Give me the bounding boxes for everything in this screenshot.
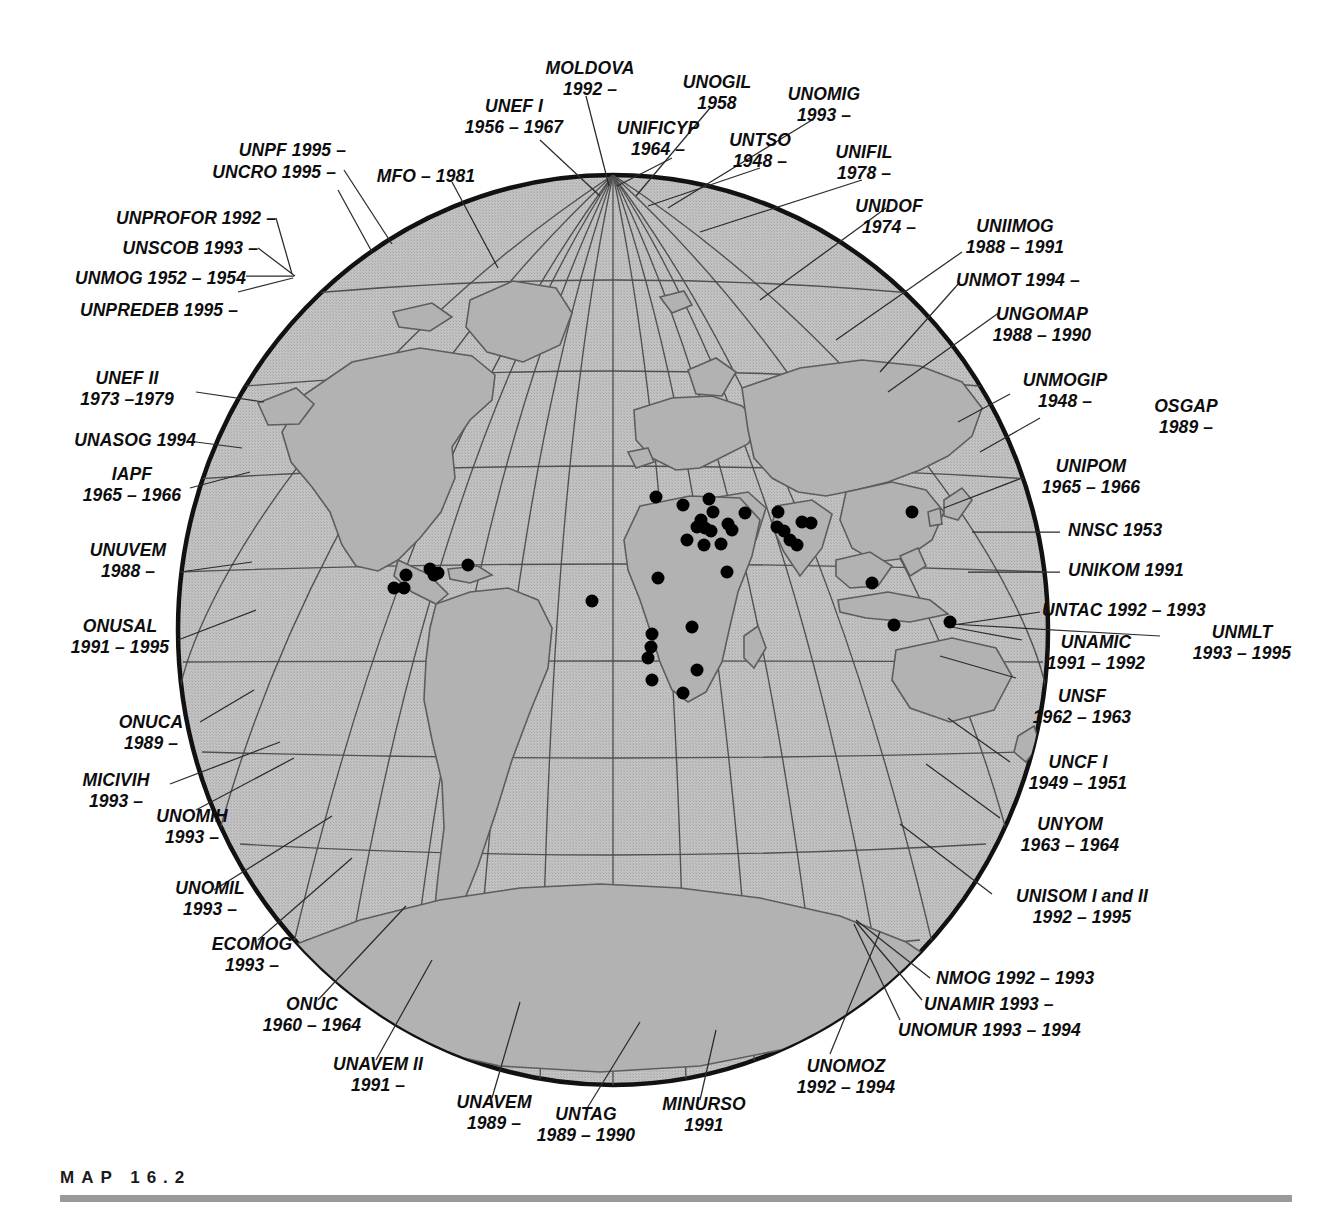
label-unifil-line-0: UNIFIL <box>812 142 916 163</box>
label-unyom-line-1: 1963 – 1964 <box>1000 835 1140 856</box>
label-uncro-line-0: UNCRO 1995 – <box>60 162 336 183</box>
site-dot <box>686 621 699 634</box>
label-unomih-line-1: 1993 – <box>116 827 268 848</box>
label-unisom-line-0: UNISOM I and II <box>988 886 1176 907</box>
label-unomig: UNOMIG1993 – <box>768 84 880 126</box>
label-unpredeb-line-0: UNPREDEB 1995 – <box>20 300 238 321</box>
caption-block: MAP 16.2 <box>60 1168 1300 1202</box>
label-unavem2-line-0: UNAVEM II <box>300 1054 456 1075</box>
label-unifil-line-1: 1978 – <box>812 163 916 184</box>
label-unomil-line-0: UNOMIL <box>134 878 286 899</box>
label-micivih-line-0: MICIVIH <box>48 770 184 791</box>
label-unamic-line-0: UNAMIC <box>1020 632 1172 653</box>
label-unipom-line-1: 1965 – 1966 <box>1016 477 1166 498</box>
label-uncf1-line-0: UNCF I <box>1008 752 1148 773</box>
label-iapf-line-0: IAPF <box>62 464 202 485</box>
label-onuc-line-0: ONUC <box>232 994 392 1015</box>
site-dot <box>705 525 718 538</box>
label-unsf: UNSF1962 – 1963 <box>1012 686 1152 728</box>
caption-rule <box>60 1195 1292 1202</box>
label-ecomog: ECOMOG1993 – <box>176 934 328 976</box>
label-unamir-line-0: UNAMIR 1993 – <box>924 994 1134 1015</box>
label-ecomog-line-1: 1993 – <box>176 955 328 976</box>
label-unpf-line-0: UNPF 1995 – <box>60 140 346 161</box>
label-unomoz-line-0: UNOMOZ <box>770 1056 922 1077</box>
site-dot <box>703 493 716 506</box>
label-unmog: UNMOG 1952 – 1954 <box>20 268 246 289</box>
site-dot <box>698 539 711 552</box>
label-moldova-line-1: 1992 – <box>520 79 660 100</box>
label-unpredeb: UNPREDEB 1995 – <box>20 300 238 321</box>
label-unamic: UNAMIC1991 – 1992 <box>1020 632 1172 674</box>
label-unmogip: UNMOGIP1948 – <box>1000 370 1130 412</box>
label-uncro: UNCRO 1995 – <box>60 162 336 183</box>
label-unificyp-line-0: UNIFICYP <box>592 118 724 139</box>
label-ecomog-line-0: ECOMOG <box>176 934 328 955</box>
label-unamir: UNAMIR 1993 – <box>924 994 1134 1015</box>
site-dot <box>398 582 411 595</box>
label-unprofor-line-0: UNPROFOR 1992 – <box>40 208 276 229</box>
label-unmlt: UNMLT1993 – 1995 <box>1168 622 1316 664</box>
label-uniimog: UNIIMOG1988 – 1991 <box>940 216 1090 258</box>
site-dot <box>791 539 804 552</box>
site-dot <box>650 491 663 504</box>
site-dot <box>652 572 665 585</box>
label-iapf-line-1: 1965 – 1966 <box>62 485 202 506</box>
site-dot <box>677 499 690 512</box>
label-unomig-line-0: UNOMIG <box>768 84 880 105</box>
label-unmlt-line-0: UNMLT <box>1168 622 1316 643</box>
map-figure: UNPF 1995 – UNCRO 1995 – UNPROFOR 1992 –… <box>0 0 1331 1228</box>
label-unef2-line-1: 1973 –1979 <box>56 389 198 410</box>
site-dot <box>944 616 957 629</box>
label-unmlt-line-1: 1993 – 1995 <box>1168 643 1316 664</box>
map-caption-label: MAP 16.2 <box>60 1168 1300 1188</box>
label-osgap-line-0: OSGAP <box>1134 396 1238 417</box>
label-unisom-line-1: 1992 – 1995 <box>988 907 1176 928</box>
site-dot <box>681 534 694 547</box>
label-unomil: UNOMIL1993 – <box>134 878 286 920</box>
label-onuca-line-0: ONUCA <box>86 712 216 733</box>
label-unipom-line-0: UNIPOM <box>1016 456 1166 477</box>
label-unef2: UNEF II1973 –1979 <box>56 368 198 410</box>
label-onuc-line-1: 1960 – 1964 <box>232 1015 392 1036</box>
label-unomur-line-0: UNOMUR 1993 – 1994 <box>898 1020 1148 1041</box>
label-untac: UNTAC 1992 – 1993 <box>1042 600 1262 621</box>
label-untso-line-1: 1948 – <box>708 151 812 172</box>
site-dot <box>866 577 879 590</box>
label-unprofor: UNPROFOR 1992 – <box>40 208 276 229</box>
label-micivih: MICIVIH1993 – <box>48 770 184 812</box>
label-uniimog-line-1: 1988 – 1991 <box>940 237 1090 258</box>
label-ungomap-line-0: UNGOMAP <box>962 304 1122 325</box>
label-unmogip-line-0: UNMOGIP <box>1000 370 1130 391</box>
label-ungomap: UNGOMAP1988 – 1990 <box>962 304 1122 346</box>
label-mfo: MFO – 1981 <box>366 166 486 187</box>
label-unscob: UNSCOB 1993 – <box>40 238 258 259</box>
label-nnsc: NNSC 1953 <box>1068 520 1228 541</box>
label-onusal: ONUSAL1991 – 1995 <box>40 616 200 658</box>
label-unomih: UNOMIH1993 – <box>116 806 268 848</box>
site-dot <box>772 506 785 519</box>
label-unomig-line-1: 1993 – <box>768 105 880 126</box>
site-dot <box>677 687 690 700</box>
label-unsf-line-0: UNSF <box>1012 686 1152 707</box>
label-moldova-line-0: MOLDOVA <box>520 58 660 79</box>
label-osgap: OSGAP1989 – <box>1134 396 1238 438</box>
label-uncf1-line-1: 1949 – 1951 <box>1008 773 1148 794</box>
label-unsf-line-1: 1962 – 1963 <box>1012 707 1152 728</box>
label-unificyp: UNIFICYP1964 – <box>592 118 724 160</box>
site-dot <box>462 559 475 572</box>
label-unogil-line-1: 1958 <box>664 93 770 114</box>
label-unavem-line-1: 1989 – <box>424 1113 564 1134</box>
label-onuc: ONUC1960 – 1964 <box>232 994 392 1036</box>
label-untso-line-0: UNTSO <box>708 130 812 151</box>
label-osgap-line-1: 1989 – <box>1134 417 1238 438</box>
label-uncf1: UNCF I1949 – 1951 <box>1008 752 1148 794</box>
label-unpf: UNPF 1995 – <box>60 140 346 161</box>
label-unipom: UNIPOM1965 – 1966 <box>1016 456 1166 498</box>
site-dot <box>739 507 752 520</box>
label-nmog: NMOG 1992 – 1993 <box>936 968 1156 989</box>
label-unogil-line-0: UNOGIL <box>664 72 770 93</box>
site-dot <box>888 619 901 632</box>
label-unuvem-line-0: UNUVEM <box>58 540 198 561</box>
label-nnsc-line-0: NNSC 1953 <box>1068 520 1228 541</box>
